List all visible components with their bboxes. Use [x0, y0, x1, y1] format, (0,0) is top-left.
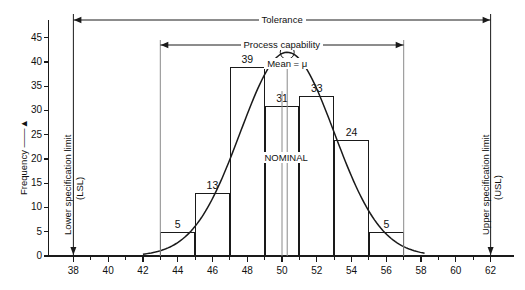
process-capability-dimension-arrow-left-arrow-icon [161, 42, 169, 48]
annotation-mean: Mean = μ [264, 58, 310, 69]
tolerance-dimension-arrow-left-arrow-icon [74, 17, 82, 23]
annotation-lsl-line1: Lower specification limit [62, 135, 73, 235]
annotation-nominal: NOMINAL [262, 152, 311, 163]
annotation-lsl-line2: (LSL) [74, 177, 85, 200]
annotation-usl-line1: Upper specification limit [480, 135, 491, 235]
lsl-down-arrow-icon [70, 247, 76, 255]
usl-down-arrow-icon [488, 247, 494, 255]
annotation-process-capability: Process capability [241, 39, 324, 50]
annotation-usl-line2: (USL) [492, 175, 503, 200]
chart-canvas: Frequency ——▲ 05101520253035404538404244… [0, 0, 525, 290]
process-capability-dimension-arrow-right-arrow-icon [396, 42, 404, 48]
tolerance-dimension-arrow-right-arrow-icon [483, 17, 491, 23]
annotation-tolerance: Tolerance [259, 14, 306, 25]
